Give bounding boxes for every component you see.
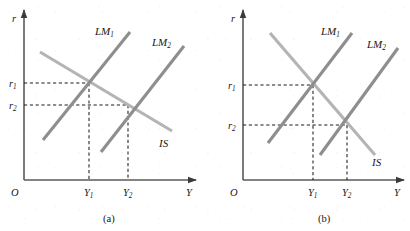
y-axis-label-b: r <box>231 13 236 24</box>
curve-label-is-a: IS <box>158 137 169 149</box>
origin-label-b: O <box>230 187 238 198</box>
panel-b: ISLM1LM2rYOr1r2Y1Y2(b) <box>228 9 405 225</box>
tick-label-r1-b: r1 <box>228 80 236 93</box>
y-axis-label-a: r <box>12 13 17 24</box>
tick-label-y1-b: Y1 <box>308 187 317 200</box>
origin-label-a: O <box>11 187 19 198</box>
tick-label-r2-a: r2 <box>9 100 17 113</box>
tick-label-y2-b: Y2 <box>342 187 352 200</box>
figure-root: ISLM1LM2rYOr1r2Y1Y2(a)ISLM1LM2rYOr1r2Y1Y… <box>0 0 410 231</box>
x-axis-arrowhead-a <box>188 177 197 183</box>
curve-is-b <box>270 33 375 155</box>
curve-lm2-b <box>320 48 398 155</box>
is-lm-figure: ISLM1LM2rYOr1r2Y1Y2(a)ISLM1LM2rYOr1r2Y1Y… <box>0 0 410 231</box>
panel-caption-b: (b) <box>318 213 331 225</box>
tick-label-r2-b: r2 <box>228 120 236 133</box>
x-axis-arrowhead-b <box>396 177 405 183</box>
tick-label-y2-a: Y2 <box>123 187 133 200</box>
y-axis-arrowhead-a <box>21 9 27 18</box>
tick-label-y1-a: Y1 <box>84 187 93 200</box>
curve-label-lm1-b: LM1 <box>320 25 340 39</box>
curve-lm2-a <box>101 46 184 152</box>
y-axis-arrowhead-b <box>240 9 246 18</box>
panel-caption-a: (a) <box>103 213 115 225</box>
curve-label-lm1-a: LM1 <box>94 25 114 39</box>
curve-lm1-a <box>43 32 130 140</box>
x-axis-label-a: Y <box>186 187 193 198</box>
tick-label-r1-a: r1 <box>9 78 17 91</box>
curve-label-lm2-a: LM2 <box>151 36 171 50</box>
curve-label-is-b: IS <box>371 156 382 168</box>
curve-label-lm2-b: LM2 <box>366 38 386 52</box>
x-axis-label-b: Y <box>394 187 401 198</box>
panel-a: ISLM1LM2rYOr1r2Y1Y2(a) <box>9 9 197 225</box>
